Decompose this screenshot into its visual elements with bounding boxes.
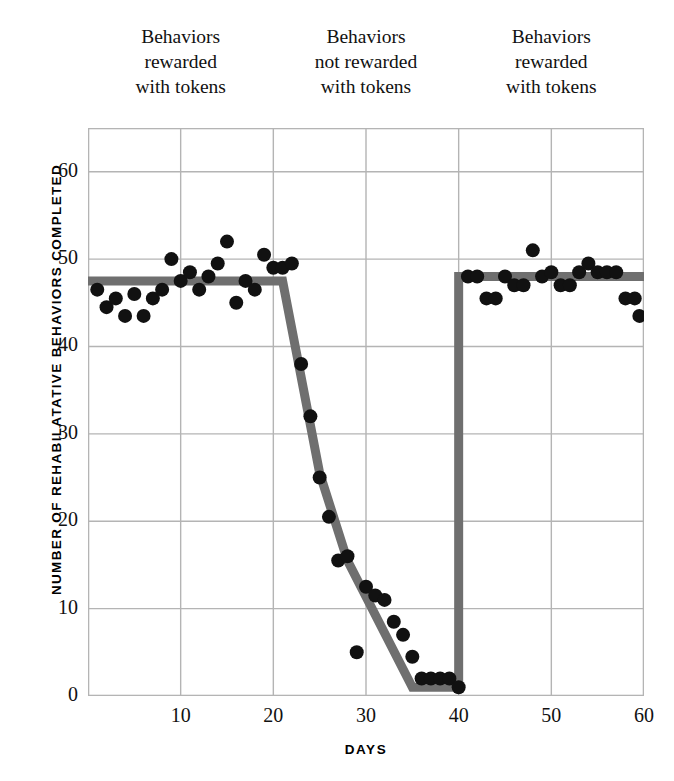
data-point: [183, 265, 197, 279]
plot-area: [88, 128, 644, 696]
data-point: [229, 296, 243, 310]
phase-annotation-1-line-3: with tokens: [88, 74, 273, 99]
phase-annotation-3: Behaviors rewarded with tokens: [459, 24, 644, 120]
scatter-plot-svg: [88, 128, 644, 696]
data-point: [563, 278, 577, 292]
data-point: [387, 615, 401, 629]
data-point: [517, 278, 531, 292]
data-point: [303, 409, 317, 423]
data-point: [155, 283, 169, 297]
data-point: [526, 243, 540, 257]
gridlines: [88, 128, 644, 696]
phase-annotation-1-line-2: rewarded: [88, 49, 273, 74]
data-point: [192, 283, 206, 297]
data-point: [294, 357, 308, 371]
data-point: [378, 593, 392, 607]
data-point: [609, 265, 623, 279]
phase-annotation-2: Behaviors not rewarded with tokens: [273, 24, 458, 120]
y-axis-tick-label: 50: [18, 246, 78, 269]
data-point: [628, 291, 642, 305]
data-point: [90, 283, 104, 297]
data-point: [340, 549, 354, 563]
data-point: [248, 283, 262, 297]
data-point: [544, 265, 558, 279]
data-point: [257, 248, 271, 262]
phase-annotations: Behaviors rewarded with tokens Behaviors…: [88, 24, 644, 120]
data-point: [137, 309, 151, 323]
data-point: [489, 291, 503, 305]
x-axis-tick-label: 30: [336, 704, 396, 727]
y-axis-tick-label: 30: [18, 421, 78, 444]
data-point: [322, 510, 336, 524]
phase-annotation-2-line-2: not rewarded: [273, 49, 458, 74]
x-axis-tick-label: 40: [429, 704, 489, 727]
phase-annotation-1: Behaviors rewarded with tokens: [88, 24, 273, 120]
data-point: [396, 628, 410, 642]
data-points: [90, 235, 644, 695]
y-axis-tick-label: 60: [18, 159, 78, 182]
token-economy-scatter-figure: Behaviors rewarded with tokens Behaviors…: [0, 0, 674, 781]
x-axis-tick-label: 50: [521, 704, 581, 727]
data-point: [127, 287, 141, 301]
data-point: [285, 256, 299, 270]
phase-annotation-3-line-2: rewarded: [459, 49, 644, 74]
data-point: [405, 650, 419, 664]
x-axis-tick-label: 60: [614, 704, 674, 727]
data-point: [220, 235, 234, 249]
data-point: [313, 471, 327, 485]
data-point: [109, 291, 123, 305]
data-point: [452, 680, 466, 694]
phase-annotation-2-line-1: Behaviors: [273, 24, 458, 49]
data-point: [118, 309, 132, 323]
data-point: [201, 270, 215, 284]
y-axis-tick-label: 40: [18, 333, 78, 356]
data-point: [470, 270, 484, 284]
y-axis-tick-label: 20: [18, 508, 78, 531]
data-point: [211, 256, 225, 270]
data-point: [632, 309, 644, 323]
phase-annotation-1-line-1: Behaviors: [88, 24, 273, 49]
phase-annotation-3-line-3: with tokens: [459, 74, 644, 99]
data-point: [164, 252, 178, 266]
data-point: [350, 645, 364, 659]
y-axis-tick-label: 10: [18, 596, 78, 619]
phase-annotation-3-line-1: Behaviors: [459, 24, 644, 49]
x-axis-tick-label: 10: [151, 704, 211, 727]
x-axis-title: DAYS: [88, 742, 644, 757]
y-axis-tick-label: 0: [18, 683, 78, 706]
x-axis-tick-label: 20: [243, 704, 303, 727]
phase-annotation-2-line-3: with tokens: [273, 74, 458, 99]
